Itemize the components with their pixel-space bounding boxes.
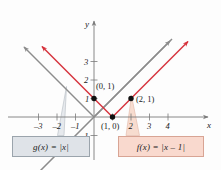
callout-f-equation[interactable]: f(x) = |x – 1| — [118, 136, 204, 157]
point-label-2-1: (2, 1) — [136, 95, 154, 104]
y-tick-label-3: 3 — [84, 58, 88, 67]
x-tick-label--3: –3 — [34, 122, 43, 131]
point-1-0 — [110, 114, 115, 119]
point-0-1 — [91, 96, 96, 101]
x-tick-label-4: 4 — [166, 122, 170, 131]
point-label-0-1: (0, 1) — [96, 82, 114, 91]
point-label-1-0: (1, 0) — [101, 122, 119, 131]
callout-f-text: f(x) = |x – 1| — [137, 142, 185, 152]
x-axis-label: x — [207, 121, 211, 130]
callout-g-text: g(x) = |x| — [33, 142, 69, 152]
absolute-value-graph-figure: y x –3 –2 –1 2 3 4 3 2 1 –1 (0, 1) (2, 1… — [0, 0, 221, 170]
x-tick-label--2: –2 — [53, 122, 62, 131]
y-tick-label-1: 1 — [85, 95, 89, 104]
x-tick-label--1: –1 — [71, 122, 80, 131]
x-tick-label-2: 2 — [129, 122, 133, 131]
y-axis-label: y — [85, 20, 89, 29]
x-tick-label-3: 3 — [147, 122, 151, 131]
callout-g-equation[interactable]: g(x) = |x| — [12, 136, 90, 157]
curve-f-right-arrow — [113, 42, 189, 118]
point-2-1 — [128, 96, 133, 101]
y-tick-label-2: 2 — [84, 76, 88, 85]
